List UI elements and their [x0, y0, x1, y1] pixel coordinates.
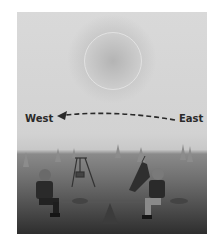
child-left — [36, 169, 60, 217]
west-label: West — [25, 113, 53, 124]
trees — [23, 144, 193, 167]
east-label: East — [179, 113, 203, 124]
seesaw — [62, 198, 188, 224]
swing-set — [72, 158, 95, 187]
east-to-west-arrow — [57, 111, 175, 120]
playground-illustration: West East — [17, 12, 207, 234]
